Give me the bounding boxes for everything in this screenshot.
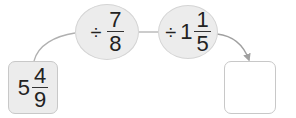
divide-icon: ÷ [165, 21, 176, 44]
step-2-operation: ÷ 1 1 5 [158, 5, 218, 59]
step-2-numerator: 1 [194, 9, 210, 31]
result-answer-box[interactable] [224, 61, 276, 114]
start-value-box: 5 4 9 [8, 61, 58, 114]
connector-start-to-step1 [34, 33, 75, 61]
step-2-fraction: 1 5 [194, 9, 210, 55]
start-fraction: 4 9 [32, 65, 48, 111]
start-denominator: 9 [32, 87, 48, 111]
step-1-operation: ÷ 7 8 [75, 4, 139, 60]
step-1-fraction: 7 8 [107, 9, 123, 55]
step-2-whole: 1 [180, 19, 192, 45]
connector-step2-to-result [217, 34, 249, 60]
start-numerator: 4 [32, 65, 48, 87]
step-1-denominator: 8 [107, 31, 123, 55]
divide-icon: ÷ [90, 21, 101, 44]
step-2-denominator: 5 [194, 31, 210, 55]
start-whole: 5 [18, 75, 30, 101]
step-1-numerator: 7 [107, 9, 123, 31]
